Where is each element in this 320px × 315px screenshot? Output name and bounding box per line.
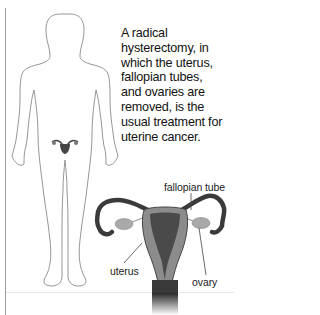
label-uterus: uterus <box>110 265 139 277</box>
label-ovary: ovary <box>192 276 217 288</box>
caption-text: A radical hysterectomy, in which the ute… <box>121 26 233 144</box>
caption-line: fallopian tubes, <box>121 70 233 85</box>
right-ovary <box>192 218 210 229</box>
caption-line: hysterectomy, in <box>121 41 233 56</box>
caption-line: and ovaries are <box>121 85 233 100</box>
caption-line: A radical <box>121 26 233 41</box>
caption-line: uterine cancer. <box>121 130 233 145</box>
leader-ovary <box>199 228 206 275</box>
caption-line: which the uterus, <box>121 56 233 71</box>
caption-line: usual treatment for <box>121 115 233 130</box>
uterus-diagram <box>97 193 224 315</box>
left-ovary <box>115 219 133 230</box>
leader-uterus <box>124 243 142 263</box>
label-fallopian-tube: fallopian tube <box>164 181 225 193</box>
caption-line: removed, is the <box>121 100 233 115</box>
